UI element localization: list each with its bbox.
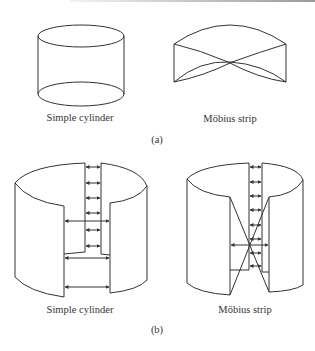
part-a-label: (a) [151, 134, 163, 145]
simple-cylinder-a [38, 25, 124, 106]
mobius-strip-a [174, 25, 286, 82]
caption-simple-cylinder-a: Simple cylinder [47, 112, 114, 123]
part-b-label: (b) [151, 324, 163, 335]
caption-mobius-strip-b: Möbius strip [218, 304, 271, 315]
diagram-canvas [0, 0, 315, 351]
caption-mobius-strip-a: Möbius strip [203, 113, 256, 124]
caption-simple-cylinder-b: Simple cylinder [47, 304, 114, 315]
mobius-strip-b [187, 163, 303, 295]
simple-cylinder-b [15, 163, 147, 297]
